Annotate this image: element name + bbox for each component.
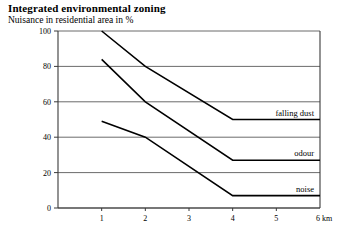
y-axis-ticks: 020406080100 — [39, 27, 58, 213]
y-tick-label: 0 — [47, 204, 51, 213]
x-tick-label: 1 — [100, 214, 104, 223]
plot-svg: 020406080100 123456 km falling dustodour… — [0, 0, 352, 241]
series-line-noise — [102, 121, 320, 195]
y-tick-label: 20 — [43, 169, 51, 178]
plot-area: 020406080100 123456 km falling dustodour… — [0, 0, 352, 241]
chart-figure: Integrated environmental zoning Nuisance… — [0, 0, 352, 241]
x-tick-label: 3 — [187, 214, 191, 223]
y-tick-label: 80 — [43, 62, 51, 71]
x-axis-ticks: 123456 km — [100, 208, 333, 223]
series-label-noise: noise — [296, 184, 314, 194]
series-label-falling-dust: falling dust — [276, 108, 315, 118]
series-label-odour: odour — [294, 148, 314, 158]
y-tick-label: 100 — [39, 27, 51, 36]
x-tick-label: 4 — [231, 214, 235, 223]
series-labels-group: falling dustodournoise — [276, 108, 315, 194]
x-tick-label: 5 — [274, 214, 278, 223]
series-line-falling-dust — [102, 31, 320, 120]
y-tick-label: 40 — [43, 133, 51, 142]
y-tick-label: 60 — [43, 98, 51, 107]
x-tick-label: 2 — [143, 214, 147, 223]
x-axis-unit-label: 6 km — [316, 214, 333, 223]
